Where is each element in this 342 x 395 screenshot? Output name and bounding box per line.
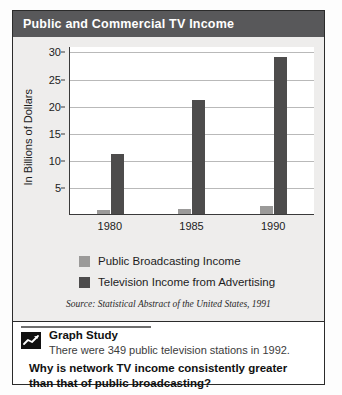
bar-1985-series0 bbox=[178, 209, 191, 214]
bar-1990-series0 bbox=[260, 206, 273, 214]
bar-group-1985 bbox=[151, 47, 232, 214]
figure-frame: Public and Commercial TV Income In Billi… bbox=[12, 10, 325, 385]
chart-title-bar: Public and Commercial TV Income bbox=[13, 11, 324, 37]
bar-group-1980 bbox=[70, 47, 151, 214]
study-body: Graph Study There were 349 public televi… bbox=[49, 329, 314, 391]
y-tick-mark-15 bbox=[61, 133, 65, 134]
bar-1980-series0 bbox=[97, 210, 110, 214]
legend-swatch-advertising bbox=[79, 277, 90, 288]
y-tick-mark-10 bbox=[61, 160, 65, 161]
plot-area bbox=[69, 47, 314, 215]
legend-label-advertising: Television Income from Advertising bbox=[98, 276, 275, 288]
chart-legend: Public Broadcasting Income Television In… bbox=[13, 249, 324, 321]
figure-page: Public and Commercial TV Income In Billi… bbox=[0, 0, 342, 395]
chart-region: In Billions of Dollars 51015202530 19801… bbox=[13, 37, 324, 249]
x-tick-1990: 1990 bbox=[232, 220, 314, 232]
bar-1985-series1 bbox=[192, 100, 205, 214]
legend-swatch-public-broadcasting bbox=[79, 256, 90, 267]
bar-1990-series1 bbox=[274, 57, 287, 214]
line-chart-icon bbox=[21, 332, 41, 349]
study-heading: Graph Study bbox=[49, 329, 314, 342]
chart-source: Source: Statistical Abstract of the Unit… bbox=[13, 299, 324, 309]
y-tick-15: 15 bbox=[49, 128, 61, 140]
legend-item-public-broadcasting: Public Broadcasting Income bbox=[79, 255, 241, 267]
legend-label-public-broadcasting: Public Broadcasting Income bbox=[98, 255, 241, 267]
y-tick-10: 10 bbox=[49, 155, 61, 167]
bar-1980-series1 bbox=[111, 154, 124, 214]
x-tick-1985: 1985 bbox=[151, 220, 233, 232]
bar-group-1990 bbox=[233, 47, 314, 214]
y-tick-mark-20 bbox=[61, 106, 65, 107]
y-tick-25: 25 bbox=[49, 74, 61, 86]
x-axis-labels: 198019851990 bbox=[69, 217, 314, 235]
y-tick-20: 20 bbox=[49, 101, 61, 113]
y-tick-30: 30 bbox=[49, 46, 61, 58]
y-axis-ticks: 51015202530 bbox=[35, 37, 65, 249]
y-tick-mark-30 bbox=[61, 52, 65, 53]
y-tick-mark-5 bbox=[61, 187, 65, 188]
x-tick-1980: 1980 bbox=[69, 220, 151, 232]
study-question: Why is network TV income consistently gr… bbox=[29, 361, 314, 391]
bar-groups bbox=[70, 47, 314, 214]
study-fact: There were 349 public television station… bbox=[49, 343, 314, 357]
page-title: Public and Commercial TV Income bbox=[13, 17, 234, 31]
y-tick-mark-25 bbox=[61, 79, 65, 80]
legend-item-advertising: Television Income from Advertising bbox=[79, 276, 275, 288]
graph-study-box: Graph Study There were 349 public televi… bbox=[13, 321, 324, 384]
y-axis-label-text: In Billions of Dollars bbox=[22, 89, 34, 186]
study-divider-rule bbox=[21, 326, 151, 328]
